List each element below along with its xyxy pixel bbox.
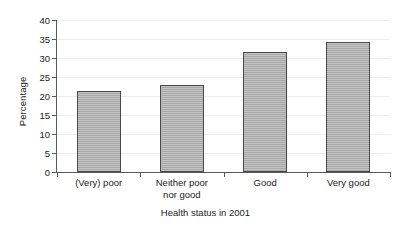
y-axis-tick bbox=[52, 20, 57, 21]
x-axis-tick-label-line: nor good bbox=[143, 189, 220, 201]
x-axis-tick bbox=[390, 172, 391, 177]
y-axis-tick-label: 30 bbox=[39, 53, 50, 64]
x-axis-tick-label: Good bbox=[227, 177, 304, 189]
x-axis-tick bbox=[140, 172, 141, 177]
x-axis-tick bbox=[57, 172, 58, 177]
y-axis-tick bbox=[52, 58, 57, 59]
x-axis-line bbox=[56, 172, 390, 173]
bar bbox=[326, 42, 370, 172]
y-axis-tick bbox=[52, 96, 57, 97]
x-axis-tick-label: Neither poornor good bbox=[143, 177, 220, 200]
gridline bbox=[57, 20, 390, 21]
x-axis-tick-label: Very good bbox=[310, 177, 387, 189]
bar bbox=[77, 91, 121, 172]
gridline bbox=[57, 39, 390, 40]
x-axis-tick bbox=[307, 172, 308, 177]
x-axis-tick-label-line: Good bbox=[227, 177, 304, 189]
y-axis-title: Percentage bbox=[17, 57, 28, 147]
y-axis-tick bbox=[52, 153, 57, 154]
y-axis-tick bbox=[52, 115, 57, 116]
x-axis-title: Health status in 2001 bbox=[0, 207, 411, 218]
y-axis-tick-label: 40 bbox=[39, 15, 50, 26]
bar bbox=[160, 85, 204, 172]
x-axis-tick-label: (Very) poor bbox=[60, 177, 137, 189]
y-axis-tick bbox=[52, 77, 57, 78]
y-axis-tick-label: 20 bbox=[39, 91, 50, 102]
x-axis-tick bbox=[224, 172, 225, 177]
y-axis-tick-label: 0 bbox=[45, 167, 50, 178]
y-axis-tick-label: 10 bbox=[39, 129, 50, 140]
bar-chart-figure: Percentage 0510152025303540(Very) poorNe… bbox=[0, 0, 411, 230]
plot-area: 0510152025303540(Very) poorNeither poorn… bbox=[57, 20, 390, 172]
y-axis-tick-label: 25 bbox=[39, 72, 50, 83]
y-axis-tick-label: 15 bbox=[39, 110, 50, 121]
x-axis-tick-label-line: Very good bbox=[310, 177, 387, 189]
bar bbox=[243, 52, 287, 172]
y-axis-tick-label: 5 bbox=[45, 148, 50, 159]
y-axis-tick-label: 35 bbox=[39, 34, 50, 45]
x-axis-tick-label-line: (Very) poor bbox=[60, 177, 137, 189]
x-axis-tick-label-line: Neither poor bbox=[143, 177, 220, 189]
y-axis-tick bbox=[52, 134, 57, 135]
y-axis-tick bbox=[52, 39, 57, 40]
